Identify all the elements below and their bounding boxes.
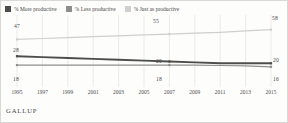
x-axis-tick-1995: 1995 [12,89,23,95]
data-label-more-2015: 20 [273,57,279,63]
data-label-less-2007: 18 [156,76,162,82]
data-label-just-2015: 58 [272,15,278,21]
data-label-more-1995: 28 [13,47,19,53]
data-point-marker [168,64,170,66]
x-axis-tick-2009: 2009 [189,89,200,95]
legend-label-less-productive: % Less productive [75,6,116,12]
gallup-trademark-mark: · [37,107,38,111]
x-axis-tick-2007: 2007 [164,89,175,95]
data-point-marker [168,33,170,35]
data-label-just-2007: 55 [153,18,159,24]
gallup-wordmark-text: GALLUP [6,107,37,114]
legend-item-just-as-productive[interactable]: % Just as productive [125,6,179,12]
data-label-less-1995: 18 [13,76,19,82]
legend-label-just-as-productive: % Just as productive [134,6,179,12]
data-point-marker [270,66,272,68]
legend-label-more-productive: % More productive [14,6,57,12]
data-point-marker [270,62,272,64]
data-point-marker [168,60,170,62]
chart-legend: % More productive % Less productive % Ju… [5,4,179,14]
legend-swatch-more-productive [5,6,11,12]
x-axis-tick-1997: 1997 [37,89,48,95]
gridlines [17,15,271,87]
x-axis: 1995199719992001200320052007200920112013… [1,89,288,101]
legend-item-more-productive[interactable]: % More productive [5,6,57,12]
x-axis-tick-2013: 2013 [240,89,251,95]
data-label-less-2015: 16 [273,76,279,82]
chart-svg [1,15,288,87]
x-axis-tick-2001: 2001 [88,89,99,95]
legend-swatch-less-productive [66,6,72,12]
legend-swatch-just-as-productive [125,6,131,12]
data-point-marker [270,29,272,31]
gallup-wordmark: GALLUP· [6,107,39,114]
data-point-marker [16,64,18,66]
legend-item-less-productive[interactable]: % Less productive [66,6,116,12]
data-label-just-1995: 47 [14,23,20,29]
plot-area [1,15,288,87]
gallup-line-chart: % More productive % Less productive % Ju… [0,0,288,123]
x-axis-tick-2003: 2003 [113,89,124,95]
data-point-marker [16,38,18,40]
x-axis-tick-2015: 2015 [266,89,277,95]
data-label-more-2007: 20 [156,58,162,64]
x-axis-tick-2011: 2011 [215,89,226,95]
data-point-marker [16,55,18,57]
x-axis-tick-1999: 1999 [62,89,73,95]
x-axis-tick-2005: 2005 [139,89,150,95]
